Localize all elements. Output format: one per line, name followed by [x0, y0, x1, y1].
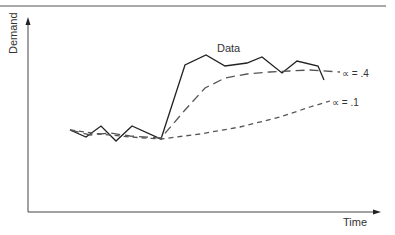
x-axis-arrow-icon — [373, 210, 381, 215]
label-data: Data — [217, 42, 241, 54]
chart: Data ∝ = .4 ∝ = .1 Demand Time — [0, 0, 395, 235]
y-axis-label: Demand — [7, 12, 19, 54]
series-alpha-04-line — [70, 70, 340, 138]
label-alpha-04: ∝ = .4 — [342, 68, 369, 79]
label-alpha-01: ∝ = .1 — [332, 97, 359, 108]
y-axis-arrow-icon — [26, 17, 31, 25]
x-axis-label: Time — [343, 216, 367, 228]
series-data-line — [70, 55, 324, 141]
